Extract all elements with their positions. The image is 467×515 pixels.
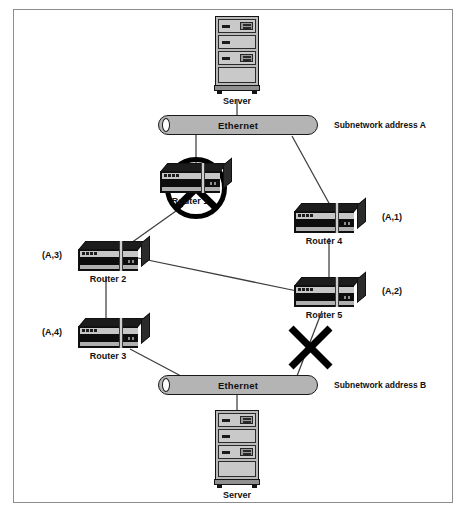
link-router-2-router-5 — [138, 258, 297, 291]
router-2-label: Router 2 — [70, 274, 146, 284]
network-diagram-canvas: Server Ethernet Subnetwork address A Rou… — [0, 0, 467, 515]
router-2-address-label: (A,3) — [42, 250, 62, 260]
router-icon — [294, 203, 366, 237]
server-bay — [218, 445, 256, 459]
server-bay — [218, 19, 256, 33]
server-bay — [218, 51, 256, 65]
router-4: Router 4 — [294, 203, 366, 237]
ethernet-bus-a: Ethernet — [158, 115, 318, 135]
router-icon — [78, 241, 150, 275]
server-bay — [218, 67, 256, 83]
link-bus-a-router-4 — [292, 136, 330, 205]
router-3-label: Router 3 — [70, 351, 146, 361]
router-4-address-label: (A,1) — [382, 212, 402, 222]
server-bottom: Server — [207, 410, 267, 480]
server-icon — [215, 410, 259, 480]
router-3-address-label: (A,4) — [42, 327, 62, 337]
subnetwork-address-a-label: Subnetwork address A — [334, 120, 426, 130]
router-1-label: Router 1 — [152, 196, 228, 206]
router-4-label: Router 4 — [286, 236, 362, 246]
ethernet-b-label: Ethernet — [159, 376, 317, 394]
router-icon — [160, 163, 232, 197]
server-bay — [218, 461, 256, 477]
ethernet-a-label: Ethernet — [159, 116, 317, 134]
server-bay — [218, 35, 256, 49]
server-top: Server — [207, 16, 267, 86]
router-5-address-label: (A,2) — [382, 286, 402, 296]
router-3: Router 3 — [78, 318, 150, 352]
ethernet-bus-b: Ethernet — [158, 375, 318, 395]
server-bottom-label: Server — [207, 490, 267, 500]
router-icon — [294, 277, 366, 311]
router-5: Router 5 — [294, 277, 366, 311]
router-2: Router 2 — [78, 241, 150, 275]
link-router-5-failure-cross — [291, 328, 330, 367]
router-icon — [78, 318, 150, 352]
router-5-label: Router 5 — [286, 310, 362, 320]
router-1: Router 1 — [160, 163, 232, 197]
server-bay — [218, 413, 256, 427]
server-top-label: Server — [207, 96, 267, 106]
server-icon — [215, 16, 259, 86]
subnetwork-address-b-label: Subnetwork address B — [334, 380, 426, 390]
server-bay — [218, 429, 256, 443]
